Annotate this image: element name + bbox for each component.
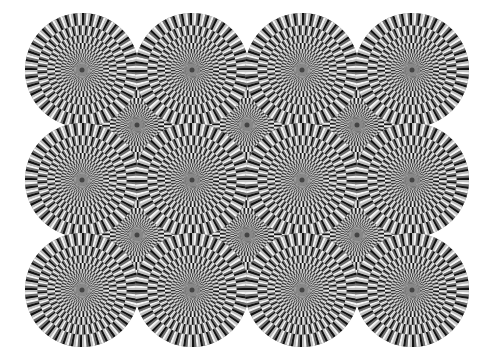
snake-disk	[245, 233, 359, 347]
snake-disk	[25, 13, 139, 127]
rotating-snakes-artwork	[0, 0, 496, 361]
snake-disk	[355, 233, 469, 347]
snake-disk	[355, 123, 469, 237]
snake-disk	[25, 233, 139, 347]
snake-disk	[245, 13, 359, 127]
snake-disk	[135, 123, 249, 237]
snake-disk	[25, 123, 139, 237]
snake-disk	[355, 13, 469, 127]
snake-disk	[135, 233, 249, 347]
snake-disk	[135, 13, 249, 127]
snake-disk	[245, 123, 359, 237]
illusion-canvas: Rotating snakes illusion	[0, 0, 496, 361]
